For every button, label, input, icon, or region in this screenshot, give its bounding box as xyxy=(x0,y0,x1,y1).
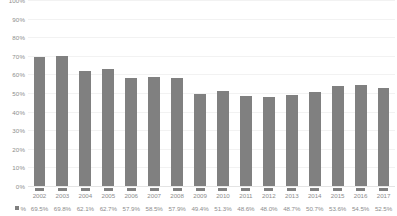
column-marker-icon xyxy=(356,188,365,191)
data-table-year-cell: 2012 xyxy=(257,188,280,199)
data-table-value-cell: 57.9% xyxy=(120,205,143,212)
column-marker-icon xyxy=(241,188,250,191)
y-axis-tick-label: 80% xyxy=(12,34,25,41)
y-axis-tick-label: 60% xyxy=(12,71,25,78)
bar-slot xyxy=(257,0,280,186)
bar xyxy=(56,56,68,186)
x-axis-tick-label: 2015 xyxy=(331,192,345,199)
bar-slot xyxy=(74,0,97,186)
bar xyxy=(286,95,298,186)
column-marker-icon xyxy=(333,188,342,191)
x-axis-tick-label: 2017 xyxy=(377,192,391,199)
column-marker-icon xyxy=(58,188,67,191)
y-axis-tick-label: 30% xyxy=(12,127,25,134)
x-axis-tick-label: 2014 xyxy=(308,192,322,199)
bar-slot xyxy=(280,0,303,186)
data-table-year-cell: 2010 xyxy=(212,188,235,199)
bar xyxy=(194,94,206,186)
data-table-value-row: % 69.5%69.8%62.1%62.7%57.9%58.5%57.9%49.… xyxy=(0,201,397,215)
x-axis-tick-label: 2002 xyxy=(33,192,47,199)
bar xyxy=(378,88,390,186)
bar-slot xyxy=(51,0,74,186)
bar xyxy=(148,77,160,186)
x-axis-tick-label: 2003 xyxy=(56,192,70,199)
data-table-value-cell: 48.6% xyxy=(234,205,257,212)
bar-slot xyxy=(28,0,51,186)
data-table-year-cell: 2005 xyxy=(97,188,120,199)
x-axis-tick-label: 2006 xyxy=(124,192,138,199)
bar xyxy=(125,78,137,186)
bar xyxy=(217,91,229,186)
value-cells: 69.5%69.8%62.1%62.7%57.9%58.5%57.9%49.4%… xyxy=(28,205,397,212)
bar-slot xyxy=(189,0,212,186)
column-marker-icon xyxy=(379,188,388,191)
bar-slot xyxy=(326,0,349,186)
data-table-value-cell: 50.7% xyxy=(303,205,326,212)
x-axis-tick-label: 2009 xyxy=(193,192,207,199)
data-table-year-cell: 2008 xyxy=(166,188,189,199)
bar-slot xyxy=(349,0,372,186)
bar-slot xyxy=(303,0,326,186)
bar-slot xyxy=(143,0,166,186)
data-table-year-cell: 2009 xyxy=(189,188,212,199)
data-table-value-cell: 48.0% xyxy=(257,205,280,212)
bar xyxy=(355,85,367,186)
data-table-value-cell: 52.5% xyxy=(372,205,395,212)
column-marker-icon xyxy=(81,188,90,191)
column-marker-icon xyxy=(218,188,227,191)
data-table-year-cell: 2006 xyxy=(120,188,143,199)
chart-data-table: 2002200320042005200620072008200920102011… xyxy=(0,186,397,216)
x-axis-tick-label: 2013 xyxy=(285,192,299,199)
y-axis-tick-label: 50% xyxy=(12,90,25,97)
data-table-year-cell: 2016 xyxy=(349,188,372,199)
y-axis-tick-label: 70% xyxy=(12,52,25,59)
bar-slot xyxy=(120,0,143,186)
data-table-year-cell: 2003 xyxy=(51,188,74,199)
bar-slot xyxy=(234,0,257,186)
data-table-year-cell: 2013 xyxy=(280,188,303,199)
bar-series xyxy=(28,0,395,186)
data-table-year-cell: 2007 xyxy=(143,188,166,199)
data-table-year-row: 2002200320042005200620072008200920102011… xyxy=(0,186,397,201)
data-table-value-cell: 57.9% xyxy=(166,205,189,212)
data-table-value-cell: 62.1% xyxy=(74,205,97,212)
y-axis-tick-label: 100% xyxy=(9,0,25,4)
y-axis-tick-label: 40% xyxy=(12,108,25,115)
column-marker-icon xyxy=(310,188,319,191)
bar-slot xyxy=(166,0,189,186)
column-marker-icon xyxy=(173,188,182,191)
data-table-year-cell: 2014 xyxy=(303,188,326,199)
data-table-year-cell: 2004 xyxy=(74,188,97,199)
bar-slot xyxy=(97,0,120,186)
data-table-year-cell: 2017 xyxy=(372,188,395,199)
series-legend: % xyxy=(0,205,28,212)
series-legend-label: % xyxy=(20,205,26,212)
bar-slot xyxy=(372,0,395,186)
column-marker-icon xyxy=(150,188,159,191)
y-axis-tick-label: 90% xyxy=(12,15,25,22)
year-cells: 2002200320042005200620072008200920102011… xyxy=(28,188,397,199)
data-table-year-cell: 2002 xyxy=(28,188,51,199)
data-table-value-cell: 69.8% xyxy=(51,205,74,212)
chart-plot-region: 100%90%80%70%60%50%40%30%20%10%0% xyxy=(0,0,397,186)
data-table-value-cell: 53.6% xyxy=(326,205,349,212)
data-table-value-cell: 51.3% xyxy=(212,205,235,212)
data-table-year-cell: 2011 xyxy=(234,188,257,199)
bar xyxy=(34,57,46,186)
x-axis-tick-label: 2008 xyxy=(170,192,184,199)
bar-chart: 100%90%80%70%60%50%40%30%20%10%0% 200220… xyxy=(0,0,397,216)
column-marker-icon xyxy=(104,188,113,191)
bar xyxy=(263,97,275,186)
bar xyxy=(102,69,114,186)
data-table-value-cell: 69.5% xyxy=(28,205,51,212)
data-table-value-cell: 48.7% xyxy=(280,205,303,212)
x-axis-tick-label: 2010 xyxy=(216,192,230,199)
data-table-value-cell: 54.5% xyxy=(349,205,372,212)
x-axis-tick-label: 2011 xyxy=(239,192,252,199)
bar xyxy=(309,92,321,186)
x-axis-tick-label: 2004 xyxy=(79,192,93,199)
y-axis-tick-label: 10% xyxy=(12,164,25,171)
y-axis: 100%90%80%70%60%50%40%30%20%10%0% xyxy=(0,0,28,186)
x-axis-tick-label: 2016 xyxy=(354,192,368,199)
column-marker-icon xyxy=(287,188,296,191)
